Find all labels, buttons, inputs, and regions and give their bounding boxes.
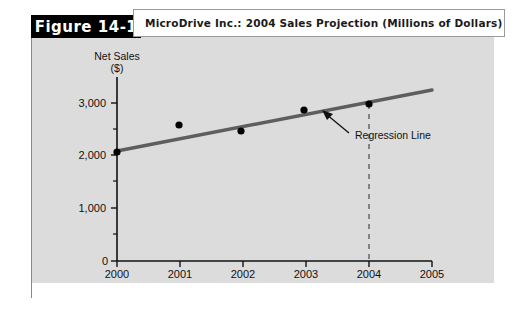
y-axis-title-line2: ($) xyxy=(111,62,124,74)
data-point-2004 xyxy=(365,100,372,107)
data-point-2002 xyxy=(237,127,244,134)
scatter-plot: Net Sales ($) 3,000 2,000 1,000 0 2000 2… xyxy=(0,0,524,312)
x-tick-label-2001: 2001 xyxy=(168,268,192,280)
x-tick-label-2005: 2005 xyxy=(420,268,444,280)
x-tick-label-2003: 2003 xyxy=(294,268,318,280)
data-point-2003 xyxy=(300,106,307,113)
y-axis-title-line1: Net Sales xyxy=(94,50,140,62)
x-tick-label-2002: 2002 xyxy=(231,268,255,280)
data-point-2001 xyxy=(175,121,182,128)
figure-container: Figure 14-1 MicroDrive Inc.: 2004 Sales … xyxy=(0,0,524,312)
y-tick-label-2000: 2,000 xyxy=(78,149,106,161)
regression-line-annotation: Regression Line xyxy=(355,129,431,141)
data-point-2000 xyxy=(113,148,120,155)
x-tick-label-2000: 2000 xyxy=(105,268,129,280)
y-tick-label-1000: 1,000 xyxy=(78,202,106,214)
y-tick-label-3000: 3,000 xyxy=(78,97,106,109)
regression-line-arrow xyxy=(322,110,349,133)
regression-line xyxy=(117,90,432,151)
y-tick-label-0: 0 xyxy=(102,255,108,267)
x-tick-label-2004: 2004 xyxy=(357,268,381,280)
